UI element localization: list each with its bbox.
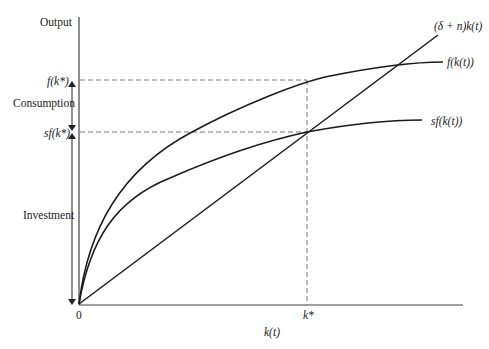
sf-kstar-label: sf(k*) (44, 128, 70, 140)
y-axis-label: Output (40, 17, 72, 29)
sf-curve-label: sf(k(t)) (431, 116, 462, 128)
kstar-label: k* (303, 310, 314, 322)
solow-diagram (0, 0, 489, 349)
origin-label: 0 (76, 310, 82, 322)
consumption-label: Consumption (13, 98, 75, 110)
f-curve-label: f(k(t)) (447, 57, 474, 69)
f-curve (79, 62, 443, 304)
line-label: (δ + n)k(t) (434, 21, 482, 33)
investment-label: Investment (23, 210, 74, 222)
depreciation-line (79, 35, 438, 304)
sf-curve (79, 120, 422, 304)
f-kstar-label: f(k*) (47, 76, 69, 88)
x-axis-label: k(t) (264, 327, 280, 339)
